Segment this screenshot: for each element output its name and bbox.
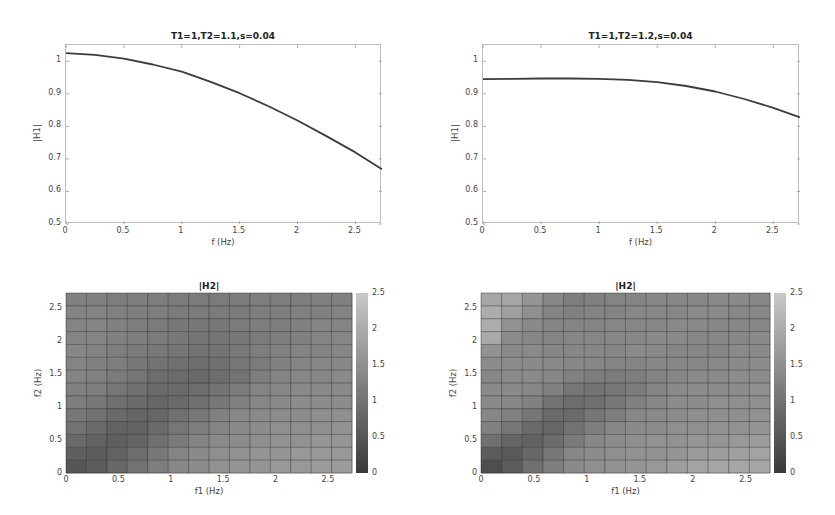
tick-label: 1: [572, 475, 602, 484]
heatmap-cell: [605, 383, 626, 396]
heatmap-cell: [86, 409, 107, 422]
heatmap-cell: [66, 396, 87, 409]
heatmap-cell: [148, 383, 169, 396]
heatmap-cell: [626, 293, 647, 306]
tick-label: 0.5: [525, 226, 555, 235]
heatmap-cell: [86, 434, 107, 447]
heatmap-cell: [168, 357, 189, 370]
heatmap-cell: [168, 434, 189, 447]
heatmap-cell: [270, 409, 291, 422]
heatmap-cell: [86, 357, 107, 370]
heatmap-cell: [543, 344, 564, 357]
heatmap-cell: [708, 306, 729, 319]
heatmap-cell: [729, 344, 750, 357]
heatmap-cell: [209, 319, 230, 332]
heatmap-cell: [86, 306, 107, 319]
heatmap-cell: [729, 422, 750, 435]
heatmap-cell: [667, 409, 688, 422]
heatmap-cell: [584, 409, 605, 422]
heatmap-cell: [250, 409, 271, 422]
heatmap-cell: [481, 332, 502, 345]
heatmap-cell: [229, 332, 250, 345]
tick-label: 0.5: [790, 432, 803, 441]
heatmap-cell: [107, 332, 128, 345]
heatmap-cell: [729, 447, 750, 460]
heatmap-cell: [332, 383, 353, 396]
heatmap-cell: [708, 357, 729, 370]
tick-label: 0.6: [21, 185, 61, 194]
heatmap-cell: [189, 306, 210, 319]
heatmap-cell: [502, 357, 523, 370]
heatmap-cell: [66, 344, 87, 357]
heatmap-cell: [270, 422, 291, 435]
heatmap-cell: [107, 383, 128, 396]
heatmap-cell: [311, 409, 332, 422]
heatmap-cell: [729, 370, 750, 383]
heatmap-cell: [626, 319, 647, 332]
heatmap-cell: [66, 409, 87, 422]
heatmap-cell: [667, 396, 688, 409]
heatmap-cell: [168, 409, 189, 422]
tick-label: 2: [790, 324, 795, 333]
heatmap-cell: [127, 396, 148, 409]
heatmap-cell: [66, 422, 87, 435]
tick-label: 0.7: [438, 153, 478, 162]
tick-label: 1: [166, 226, 196, 235]
heatmap-cell: [86, 370, 107, 383]
heatmap-cell: [543, 306, 564, 319]
heatmap-cell: [291, 344, 312, 357]
heatmap-cell: [481, 434, 502, 447]
heatmap-cell: [564, 319, 585, 332]
heatmap-cell: [270, 357, 291, 370]
heatmap-cell: [209, 383, 230, 396]
heatmap-cell: [229, 383, 250, 396]
heatmap-cell: [708, 434, 729, 447]
heatmap-cell: [564, 434, 585, 447]
heatmap-cell: [332, 357, 353, 370]
heatmap-cell: [189, 409, 210, 422]
heatmap-cell: [291, 434, 312, 447]
colorbar: [356, 293, 368, 473]
heatmap-cell: [66, 306, 87, 319]
heatmap-cell: [708, 409, 729, 422]
heatmap-cell: [626, 396, 647, 409]
heatmap-cell: [502, 383, 523, 396]
heatmap-cell: [332, 319, 353, 332]
line-plot-axes: [65, 44, 381, 223]
heatmap-cell: [564, 332, 585, 345]
tick-label: 1.5: [372, 360, 385, 369]
heatmap-cell: [148, 447, 169, 460]
heatmap-cell: [311, 357, 332, 370]
heatmap-cell: [543, 370, 564, 383]
heatmap-cell: [291, 409, 312, 422]
heatmap-cell: [107, 357, 128, 370]
heatmap-cell: [168, 344, 189, 357]
line-plot-axes: [482, 44, 799, 223]
heatmap-cell: [502, 460, 523, 473]
heatmap-cell: [605, 434, 626, 447]
heatmap-cell: [107, 293, 128, 306]
heatmap-cell: [502, 293, 523, 306]
heatmap-cell: [311, 422, 332, 435]
heatmap-cell: [564, 383, 585, 396]
heatmap-cell: [481, 319, 502, 332]
heatmap-cell: [250, 319, 271, 332]
heatmap-cell: [626, 344, 647, 357]
heatmap-cell: [543, 460, 564, 473]
heatmap-cell: [626, 447, 647, 460]
heatmap-cell: [729, 332, 750, 345]
tick-label: 1.5: [224, 226, 254, 235]
heatmap-cell: [708, 422, 729, 435]
heatmap-cell: [543, 409, 564, 422]
heatmap-cell: [626, 306, 647, 319]
heatmap-cell: [209, 332, 230, 345]
colorbar: [774, 293, 786, 473]
tick-label: 0.9: [21, 88, 61, 97]
heatmap-cell: [522, 319, 543, 332]
heatmap-cell: [127, 447, 148, 460]
heatmap-cell: [667, 344, 688, 357]
heatmap-cell: [584, 447, 605, 460]
tick-label: 1: [437, 402, 477, 411]
heatmap-cell: [522, 383, 543, 396]
heatmap-cell: [687, 357, 708, 370]
